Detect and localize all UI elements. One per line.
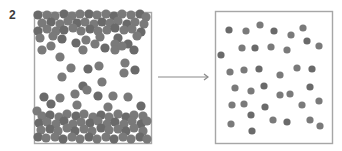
particle: [308, 65, 315, 72]
particle: [113, 124, 122, 133]
particle: [242, 27, 249, 34]
particle: [39, 92, 48, 101]
particle: [55, 52, 64, 61]
particle: [101, 132, 110, 141]
particle: [298, 101, 305, 108]
particle: [139, 19, 148, 28]
particle: [110, 23, 119, 32]
particle: [67, 132, 76, 141]
particle: [217, 51, 224, 58]
particle: [306, 116, 313, 123]
particle: [240, 66, 247, 73]
particle: [286, 90, 293, 97]
particle: [90, 39, 99, 48]
particle: [66, 63, 75, 72]
particle: [45, 124, 54, 133]
particle: [97, 17, 106, 26]
particle: [270, 27, 277, 34]
particle: [126, 134, 135, 143]
particle: [42, 24, 51, 33]
particle: [57, 34, 66, 43]
particle: [83, 64, 92, 73]
particle: [101, 9, 110, 18]
particle: [78, 45, 87, 54]
particle: [247, 111, 254, 118]
particle: [316, 122, 323, 129]
particle: [94, 61, 103, 70]
particle: [260, 82, 267, 89]
particle: [97, 77, 106, 86]
particle: [58, 134, 67, 143]
particle: [108, 91, 117, 100]
particle: [293, 64, 300, 71]
particle: [129, 45, 138, 54]
particle: [303, 37, 310, 44]
particle: [33, 10, 42, 19]
particle: [117, 41, 126, 50]
particle: [315, 42, 322, 49]
particle: [68, 23, 77, 32]
particle: [84, 9, 93, 18]
particle: [92, 134, 101, 143]
particle: [261, 103, 268, 110]
particle: [72, 100, 81, 109]
particle: [119, 25, 128, 34]
particle: [269, 116, 276, 123]
particle: [48, 31, 57, 40]
particle: [70, 89, 79, 98]
particle: [119, 68, 128, 77]
particle: [118, 132, 127, 141]
particle: [82, 85, 91, 94]
particle: [283, 46, 290, 53]
particle: [103, 102, 112, 111]
particle: [225, 26, 232, 33]
particle: [130, 65, 139, 74]
particle: [123, 92, 132, 101]
particle: [93, 91, 102, 100]
particle: [256, 21, 263, 28]
particle: [231, 84, 238, 91]
particle: [59, 25, 68, 34]
particle: [109, 134, 118, 143]
particle: [55, 93, 64, 102]
particle: [247, 87, 254, 94]
particle: [75, 134, 84, 143]
particle: [276, 71, 283, 78]
particle: [228, 101, 235, 108]
particle: [142, 116, 151, 125]
particle: [267, 43, 274, 50]
particle: [84, 132, 93, 141]
particle: [136, 101, 145, 110]
particle: [255, 65, 262, 72]
particle: [75, 9, 84, 18]
particle: [120, 58, 129, 67]
particle: [248, 127, 255, 134]
particle: [81, 35, 90, 44]
particle: [283, 118, 290, 125]
particle: [240, 100, 247, 107]
particle: [71, 38, 80, 47]
particle: [79, 109, 88, 118]
particle: [46, 99, 55, 108]
particle: [96, 123, 105, 132]
particle: [238, 44, 245, 51]
particle: [85, 24, 94, 33]
particle: [226, 68, 233, 75]
particle: [315, 97, 322, 104]
particle: [35, 33, 44, 42]
particle: [100, 43, 109, 52]
particle: [50, 132, 59, 141]
particle: [76, 26, 85, 35]
particle: [251, 44, 258, 51]
particle: [227, 120, 234, 127]
particle: [62, 123, 71, 132]
particle-diffusion-diagram: [0, 0, 342, 151]
particle: [102, 25, 111, 34]
particle: [276, 91, 283, 98]
particle: [306, 83, 313, 90]
particle: [33, 132, 42, 141]
particle: [142, 134, 151, 143]
particle: [287, 31, 294, 38]
particle: [46, 41, 55, 50]
particle: [129, 123, 138, 132]
